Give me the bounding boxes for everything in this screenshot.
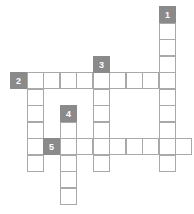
letter-cell[interactable] bbox=[60, 138, 77, 155]
letter-cell[interactable] bbox=[27, 122, 44, 139]
letter-cell[interactable] bbox=[27, 89, 44, 106]
letter-cell[interactable] bbox=[76, 138, 93, 155]
letter-cell[interactable] bbox=[27, 138, 44, 155]
clue-number-2: 2 bbox=[10, 72, 27, 89]
letter-cell[interactable] bbox=[93, 138, 110, 155]
letter-cell[interactable] bbox=[109, 138, 126, 155]
letter-cell[interactable] bbox=[126, 72, 143, 89]
clue-number-3: 3 bbox=[93, 56, 110, 73]
letter-cell[interactable] bbox=[142, 72, 159, 89]
letter-cell[interactable] bbox=[60, 72, 77, 89]
letter-cell[interactable] bbox=[93, 72, 110, 89]
letter-cell[interactable] bbox=[43, 72, 60, 89]
letter-cell[interactable] bbox=[175, 138, 192, 155]
letter-cell[interactable] bbox=[60, 171, 77, 188]
letter-cell[interactable] bbox=[93, 89, 110, 106]
crossword-grid: 12345 bbox=[0, 0, 194, 214]
letter-cell[interactable] bbox=[60, 155, 77, 172]
letter-cell[interactable] bbox=[60, 122, 77, 139]
letter-cell[interactable] bbox=[159, 23, 176, 40]
letter-cell[interactable] bbox=[159, 155, 176, 172]
clue-number-1: 1 bbox=[159, 6, 176, 23]
letter-cell[interactable] bbox=[27, 155, 44, 172]
clue-number-5: 5 bbox=[43, 138, 60, 155]
letter-cell[interactable] bbox=[159, 56, 176, 73]
letter-cell[interactable] bbox=[159, 72, 176, 89]
letter-cell[interactable] bbox=[27, 72, 44, 89]
letter-cell[interactable] bbox=[76, 72, 93, 89]
letter-cell[interactable] bbox=[142, 138, 159, 155]
letter-cell[interactable] bbox=[159, 89, 176, 106]
letter-cell[interactable] bbox=[159, 105, 176, 122]
letter-cell[interactable] bbox=[159, 138, 176, 155]
letter-cell[interactable] bbox=[93, 105, 110, 122]
letter-cell[interactable] bbox=[27, 105, 44, 122]
letter-cell[interactable] bbox=[159, 39, 176, 56]
letter-cell[interactable] bbox=[126, 138, 143, 155]
letter-cell[interactable] bbox=[159, 122, 176, 139]
letter-cell[interactable] bbox=[60, 188, 77, 205]
letter-cell[interactable] bbox=[109, 72, 126, 89]
letter-cell[interactable] bbox=[93, 155, 110, 172]
clue-number-4: 4 bbox=[60, 105, 77, 122]
letter-cell[interactable] bbox=[93, 122, 110, 139]
